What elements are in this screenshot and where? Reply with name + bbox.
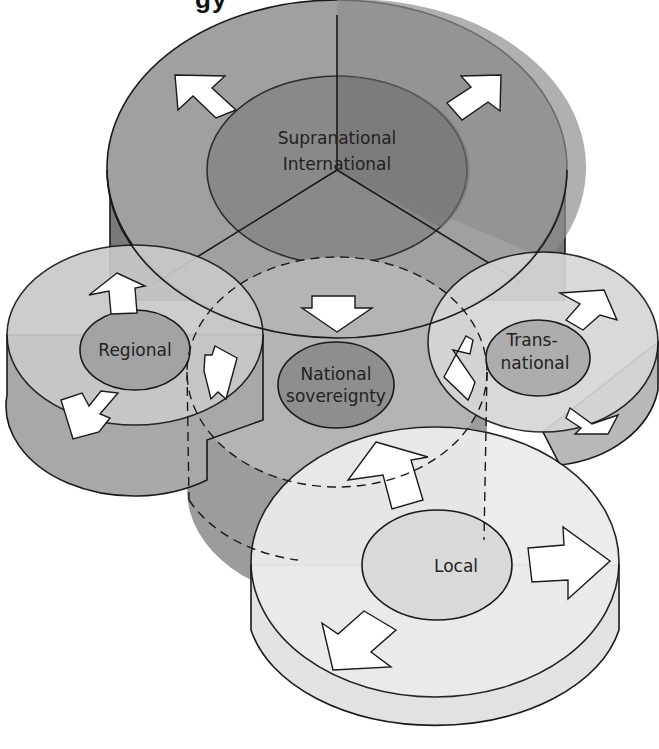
local-cylinder: Local [251, 427, 619, 725]
local-label: Local [434, 556, 478, 576]
national-inner [278, 342, 394, 428]
supranational-label-line1: Supranational [278, 128, 397, 148]
national-label-line2: sovereignty [286, 386, 386, 406]
supranational-label-line2: International [283, 154, 392, 174]
regional-label: Regional [98, 340, 171, 360]
transnational-label-line1: Trans- [505, 330, 557, 350]
governance-levels-diagram: Supranational International Regional Tra… [0, 0, 659, 749]
transnational-label-line2: national [501, 353, 570, 373]
national-label-line1: National [301, 364, 372, 384]
